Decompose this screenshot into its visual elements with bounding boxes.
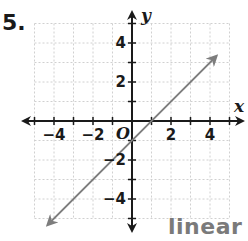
x-tick-label: −4 — [42, 126, 65, 144]
answer-text: linear — [168, 214, 242, 239]
y-tick-label: 4 — [116, 34, 126, 52]
coordinate-plane: −4−22442−2−4 x y O — [0, 0, 248, 241]
origin-label: O — [116, 124, 130, 143]
y-axis-label: y — [140, 5, 152, 25]
y-tick-label: −4 — [103, 190, 126, 208]
x-tick-label: −2 — [81, 126, 104, 144]
x-axis-label: x — [233, 96, 245, 116]
x-tick-label: 4 — [205, 126, 215, 144]
y-tick-label: 2 — [116, 73, 126, 91]
x-tick-label: 2 — [166, 126, 176, 144]
y-tick-label: −2 — [103, 151, 126, 169]
